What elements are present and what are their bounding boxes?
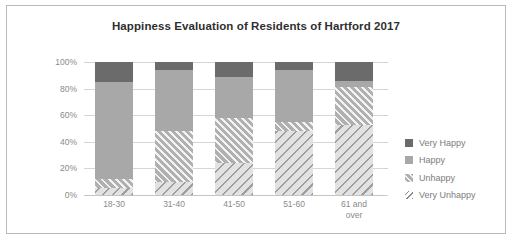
bar-segment-u [215, 118, 253, 163]
bar-segment-vu [95, 188, 133, 195]
legend-item-label: Very Unhappy [419, 190, 476, 200]
bar-segment-vh [335, 62, 373, 81]
x-axis-label: 18-30 [83, 199, 145, 210]
bar-segment-vu [155, 182, 193, 195]
bar-segment-vu [275, 131, 313, 195]
legend-item-h[interactable]: Happy [405, 152, 476, 170]
plot-area: 0%20%40%60%80%100%18-3031-4041-5051-6061… [84, 62, 384, 195]
bar-segment-u [335, 87, 373, 124]
y-axis-tick-label: 20% [60, 163, 77, 173]
chart-title: Happiness Evaluation of Residents of Har… [7, 20, 505, 32]
x-axis-label: 61 andover [323, 199, 385, 220]
bar-31-40 [155, 62, 193, 195]
x-axis-label: 31-40 [143, 199, 205, 210]
y-tickmark-0 [384, 195, 388, 196]
legend-item-label: Very Happy [419, 138, 466, 148]
x-axis-label: 51-60 [263, 199, 325, 210]
legend-swatch-icon [405, 191, 413, 199]
chart-card: Happiness Evaluation of Residents of Har… [6, 5, 506, 234]
x-axis-label: 41-50 [203, 199, 265, 210]
bar-segment-h [335, 81, 373, 88]
bar-61-and-over [335, 62, 373, 195]
bar-segment-vh [155, 62, 193, 70]
bar-segment-u [275, 122, 313, 131]
bar-41-50 [215, 62, 253, 195]
y-axis-tick-label: 60% [60, 110, 77, 120]
legend-item-vh[interactable]: Very Happy [405, 134, 476, 152]
bar-18-30 [95, 62, 133, 195]
legend-item-label: Happy [419, 155, 445, 165]
y-axis-tick-label: 0% [65, 190, 77, 200]
bar-segment-vu [215, 163, 253, 195]
y-axis-tick-label: 40% [60, 137, 77, 147]
bar-segment-vu [335, 125, 373, 195]
bar-segment-vh [95, 62, 133, 82]
y-tickmark-40 [384, 142, 388, 143]
bar-segment-vh [275, 62, 313, 70]
legend-swatch-icon [405, 139, 413, 147]
bar-segment-h [215, 77, 253, 118]
y-tickmark-100 [384, 62, 388, 63]
y-tickmark-60 [384, 115, 388, 116]
bar-segment-u [155, 131, 193, 182]
legend-item-label: Unhappy [419, 173, 455, 183]
y-tickmark-80 [384, 89, 388, 90]
bar-segment-vh [215, 62, 253, 77]
legend-swatch-icon [405, 156, 413, 164]
y-tickmark-20 [384, 168, 388, 169]
legend-swatch-icon [405, 174, 413, 182]
bar-segment-h [275, 70, 313, 122]
chart-legend: Very HappyHappyUnhappyVery Unhappy [405, 134, 476, 204]
bar-51-60 [275, 62, 313, 195]
legend-item-vu[interactable]: Very Unhappy [405, 187, 476, 205]
y-axis-tick-label: 80% [60, 84, 77, 94]
bar-segment-h [95, 82, 133, 179]
y-axis-tick-label: 100% [55, 57, 77, 67]
gridline-0 [84, 195, 384, 196]
bar-segment-u [95, 179, 133, 188]
bar-segment-h [155, 70, 193, 131]
legend-item-u[interactable]: Unhappy [405, 169, 476, 187]
